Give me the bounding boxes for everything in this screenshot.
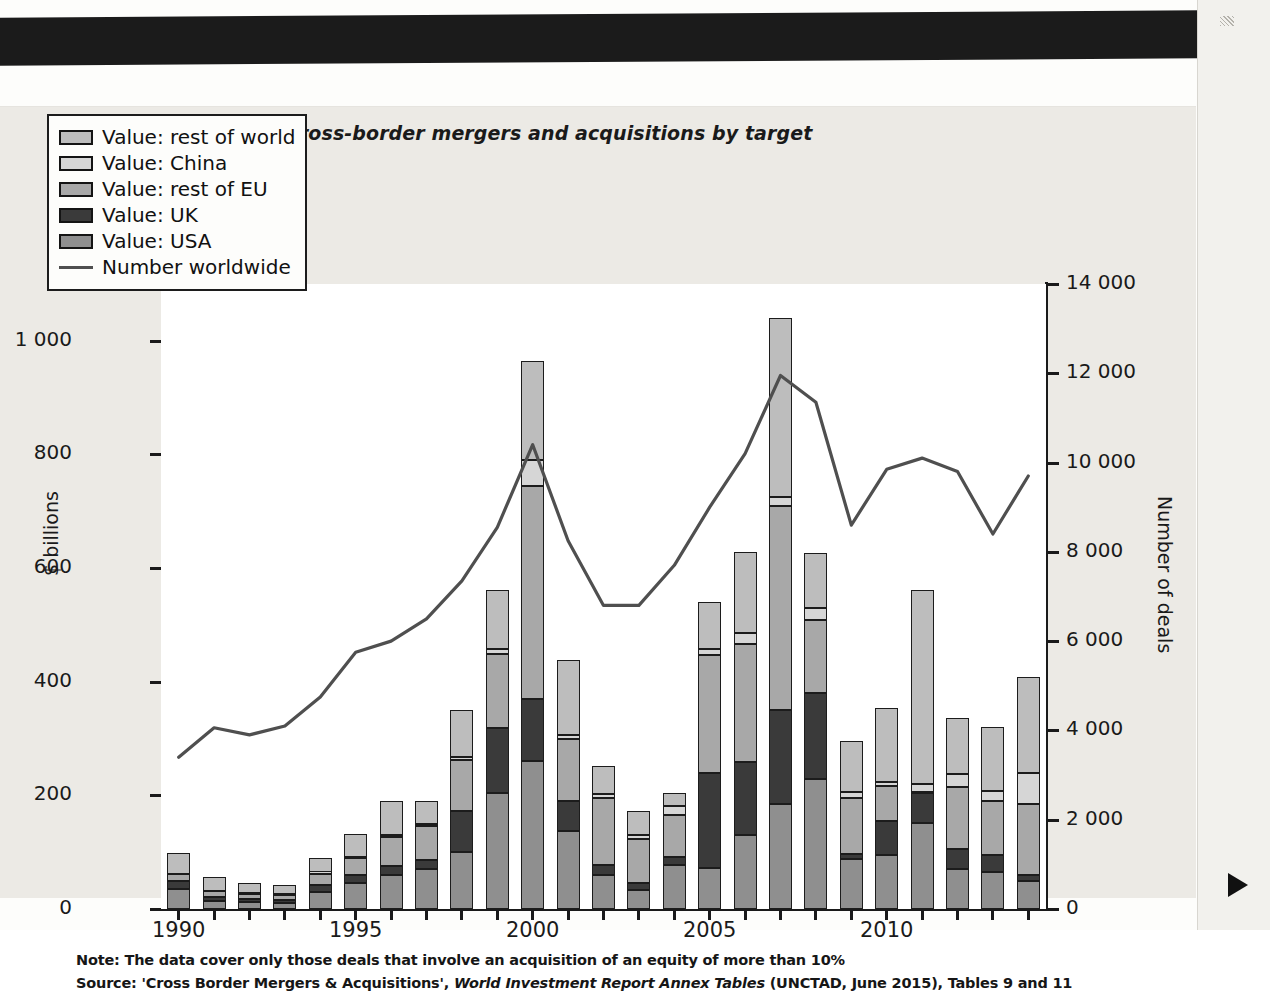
legend-item-label: Value: UK bbox=[102, 203, 198, 227]
legend-item-4[interactable]: Value: USA bbox=[59, 228, 295, 254]
y-tick-left bbox=[150, 794, 161, 797]
scan-speck bbox=[1220, 16, 1234, 26]
y-tick-label-left: 600 bbox=[34, 554, 72, 578]
y-tick-label-left: 800 bbox=[34, 440, 72, 464]
page-black-banner bbox=[0, 10, 1200, 65]
x-tick bbox=[850, 911, 853, 920]
x-tick bbox=[921, 911, 924, 920]
y-tick-right bbox=[1048, 819, 1059, 822]
x-tick-label: 1990 bbox=[152, 918, 205, 942]
y-tick-label-left: 0 bbox=[59, 895, 72, 919]
y-tick-right bbox=[1048, 462, 1059, 465]
legend-swatch-icon bbox=[59, 130, 93, 145]
x-tick-label: 2005 bbox=[683, 918, 736, 942]
y-tick-label-right: 6 000 bbox=[1066, 627, 1123, 651]
legend-item-label: Value: China bbox=[102, 151, 227, 175]
x-tick bbox=[213, 911, 216, 920]
x-tick bbox=[248, 911, 251, 920]
legend-item-0[interactable]: Value: rest of world bbox=[59, 124, 295, 150]
page-right-margin bbox=[1197, 0, 1270, 930]
source-italic-title: World Investment Report Annex Tables bbox=[454, 975, 765, 991]
x-tick bbox=[814, 911, 817, 920]
legend-item-2[interactable]: Value: rest of EU bbox=[59, 176, 295, 202]
x-tick bbox=[602, 911, 605, 920]
line-series-number-worldwide bbox=[161, 284, 1046, 909]
x-tick-label: 2010 bbox=[860, 918, 913, 942]
y-tick-label-right: 14 000 bbox=[1066, 270, 1136, 294]
y-tick-label-left: 200 bbox=[34, 781, 72, 805]
y-tick-label-right: 8 000 bbox=[1066, 538, 1123, 562]
figure-note: Note: The data cover only those deals th… bbox=[76, 952, 1126, 968]
y-axis-label-right: Number of deals bbox=[1154, 496, 1176, 653]
y-tick-label-right: 2 000 bbox=[1066, 806, 1123, 830]
legend-item-label: Value: USA bbox=[102, 229, 211, 253]
x-tick bbox=[283, 911, 286, 920]
y-tick-right bbox=[1048, 551, 1059, 554]
legend-item-label: Value: rest of world bbox=[102, 125, 295, 149]
y-tick-right bbox=[1048, 908, 1059, 911]
y-tick-left bbox=[150, 908, 161, 911]
plot-area bbox=[161, 284, 1046, 909]
y-tick-label-left: 1 000 bbox=[15, 327, 72, 351]
source-prefix: Source: 'Cross Border Mergers & Acquisit… bbox=[76, 975, 454, 991]
x-tick bbox=[673, 911, 676, 920]
y-tick-right bbox=[1048, 640, 1059, 643]
x-tick bbox=[390, 911, 393, 920]
y-tick-left bbox=[150, 453, 161, 456]
x-tick bbox=[637, 911, 640, 920]
x-tick bbox=[319, 911, 322, 920]
legend-swatch-icon bbox=[59, 182, 93, 197]
y-tick-left bbox=[150, 567, 161, 570]
y-tick-right bbox=[1048, 372, 1059, 375]
x-tick bbox=[425, 911, 428, 920]
x-tick bbox=[460, 911, 463, 920]
x-tick bbox=[956, 911, 959, 920]
x-tick bbox=[744, 911, 747, 920]
y-tick-right bbox=[1048, 729, 1059, 732]
y-tick-label-right: 0 bbox=[1066, 895, 1079, 919]
chart-legend: Value: rest of worldValue: ChinaValue: r… bbox=[47, 114, 307, 291]
legend-item-1[interactable]: Value: China bbox=[59, 150, 295, 176]
legend-item-label: Number worldwide bbox=[102, 255, 291, 279]
legend-swatch-icon bbox=[59, 234, 93, 249]
x-tick bbox=[567, 911, 570, 920]
y-tick-right bbox=[1048, 283, 1059, 286]
figure-source: Source: 'Cross Border Mergers & Acquisit… bbox=[76, 975, 1126, 991]
source-suffix: (UNCTAD, June 2015), Tables 9 and 11 bbox=[765, 975, 1072, 991]
x-tick bbox=[779, 911, 782, 920]
y-tick-label-right: 10 000 bbox=[1066, 449, 1136, 473]
figure-panel: (a) Cross-border mergers and acquisition… bbox=[0, 106, 1196, 898]
y-tick-left bbox=[150, 681, 161, 684]
x-tick bbox=[1027, 911, 1030, 920]
legend-swatch-icon bbox=[59, 156, 93, 171]
legend-line-icon bbox=[59, 266, 93, 269]
play-arrow-icon bbox=[1228, 873, 1248, 897]
legend-swatch-icon bbox=[59, 208, 93, 223]
x-tick-label: 1995 bbox=[329, 918, 382, 942]
y-tick-label-right: 4 000 bbox=[1066, 716, 1123, 740]
legend-item-label: Value: rest of EU bbox=[102, 177, 268, 201]
y-tick-label-left: 400 bbox=[34, 668, 72, 692]
legend-item-3[interactable]: Value: UK bbox=[59, 202, 295, 228]
x-tick bbox=[991, 911, 994, 920]
y-tick-label-right: 12 000 bbox=[1066, 359, 1136, 383]
y-tick-left bbox=[150, 340, 161, 343]
legend-item-5[interactable]: Number worldwide bbox=[59, 254, 295, 280]
x-tick-label: 2000 bbox=[506, 918, 559, 942]
x-tick bbox=[496, 911, 499, 920]
figure-footnotes: Note: The data cover only those deals th… bbox=[76, 952, 1126, 995]
